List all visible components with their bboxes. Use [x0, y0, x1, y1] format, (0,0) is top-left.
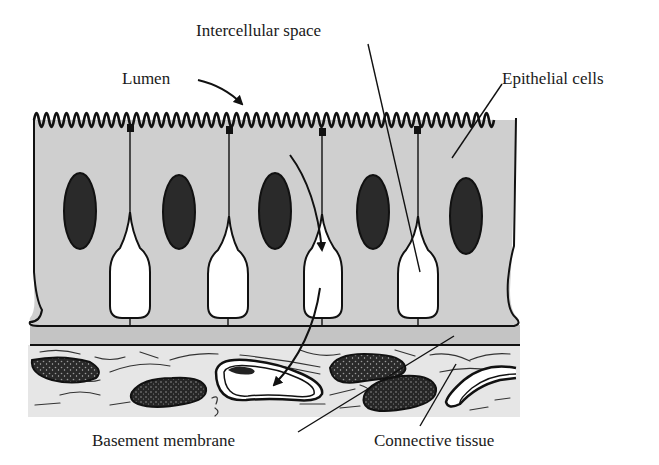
label-connective-tissue: Connective tissue: [374, 431, 494, 450]
nucleus: [357, 175, 389, 249]
label-lumen-group: Lumen: [122, 69, 242, 104]
nucleus: [259, 173, 291, 249]
nucleus: [450, 178, 482, 254]
label-intercellular-space: Intercellular space: [196, 21, 321, 40]
label-lumen: Lumen: [122, 69, 171, 88]
basement-membrane: [30, 325, 520, 345]
nucleus: [163, 175, 195, 249]
nucleus: [64, 173, 96, 249]
label-basement-membrane: Basement membrane: [92, 431, 235, 450]
label-epithelial-cells: Epithelial cells: [502, 69, 604, 88]
epithelium-diagram: Intercellular space Lumen Epithelial cel…: [0, 0, 659, 465]
epithelial-layer: [30, 113, 520, 326]
